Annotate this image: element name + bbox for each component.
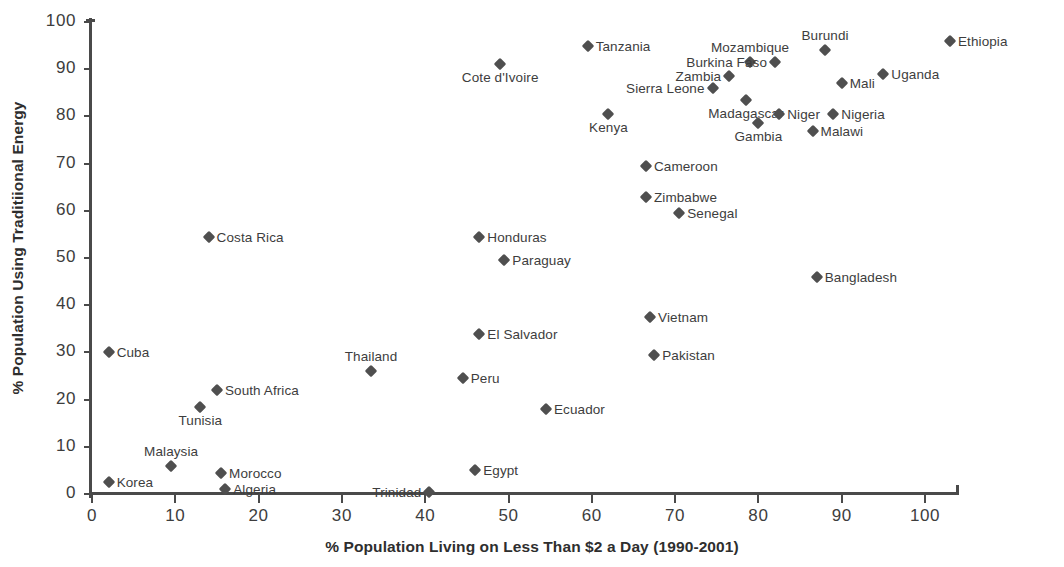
data-point-label: Ethiopia: [958, 33, 1008, 48]
data-point-marker[interactable]: [877, 68, 890, 81]
data-point-marker[interactable]: [102, 476, 115, 489]
data-point-label: Vietnam: [658, 310, 708, 325]
y-tick-label: 50: [16, 247, 76, 267]
data-point-label: Tunisia: [178, 413, 222, 428]
x-tick-label: 80: [728, 506, 788, 526]
data-point-label: Ecuador: [554, 402, 605, 417]
x-tick-mark: [508, 495, 510, 503]
data-point-marker[interactable]: [494, 58, 507, 71]
data-point-label: Korea: [117, 475, 154, 490]
x-tick-mark: [841, 495, 843, 503]
data-point-label: Senegal: [687, 206, 737, 221]
data-point-marker[interactable]: [740, 94, 753, 107]
y-tick-label: 90: [16, 58, 76, 78]
y-tick-mark: [84, 257, 91, 259]
y-tick-mark: [84, 446, 91, 448]
data-point-label: Nigeria: [841, 107, 884, 122]
data-point-marker[interactable]: [640, 160, 653, 173]
data-point-label: Pakistan: [662, 347, 715, 362]
x-axis-cap: [956, 485, 959, 495]
data-point-marker[interactable]: [835, 77, 848, 90]
data-point-marker[interactable]: [365, 365, 378, 378]
data-point-label: Egypt: [483, 463, 518, 478]
data-point-label: Uganda: [891, 66, 939, 81]
x-tick-label: 40: [395, 506, 455, 526]
data-point-label: Cote d'Ivoire: [462, 70, 539, 85]
x-tick-label: 90: [812, 506, 872, 526]
data-point-marker[interactable]: [806, 124, 819, 137]
data-point-marker[interactable]: [498, 254, 511, 267]
x-tick-label: 0: [62, 506, 122, 526]
data-point-marker[interactable]: [102, 346, 115, 359]
y-tick-mark: [84, 163, 91, 165]
y-tick-label: 40: [16, 294, 76, 314]
data-point-marker[interactable]: [944, 35, 957, 48]
y-tick-label: 10: [16, 436, 76, 456]
y-tick-label: 60: [16, 200, 76, 220]
data-point-marker[interactable]: [469, 464, 482, 477]
data-point-marker[interactable]: [456, 372, 469, 385]
data-point-label: Tanzania: [596, 38, 651, 53]
x-tick-label: 70: [645, 506, 705, 526]
y-tick-mark: [84, 304, 91, 306]
y-tick-label: 0: [16, 483, 76, 503]
data-point-marker[interactable]: [602, 108, 615, 121]
data-point-marker[interactable]: [581, 39, 594, 52]
data-point-marker[interactable]: [473, 230, 486, 243]
data-point-label: Mozambique: [711, 40, 789, 55]
y-tick-mark: [84, 399, 91, 401]
data-point-label: Honduras: [487, 229, 546, 244]
y-tick-mark: [84, 21, 91, 23]
x-tick-mark: [924, 495, 926, 503]
x-tick-label: 60: [562, 506, 622, 526]
x-tick-mark: [591, 495, 593, 503]
x-tick-mark: [174, 495, 176, 503]
data-point-marker[interactable]: [211, 384, 224, 397]
data-point-marker[interactable]: [202, 230, 215, 243]
data-point-marker[interactable]: [819, 44, 832, 57]
data-point-label: El Salvador: [487, 326, 557, 341]
x-tick-label: 100: [895, 506, 955, 526]
data-point-marker[interactable]: [648, 348, 661, 361]
data-point-label: Zimbabwe: [654, 189, 717, 204]
x-tick-label: 10: [145, 506, 205, 526]
data-point-label: Niger: [787, 107, 820, 122]
data-point-marker[interactable]: [827, 108, 840, 121]
x-tick-mark: [757, 495, 759, 503]
data-point-marker[interactable]: [165, 459, 178, 472]
data-point-label: Gambia: [734, 129, 782, 144]
x-tick-label: 50: [479, 506, 539, 526]
data-point-label: Kenya: [589, 120, 628, 135]
scatter-chart: % Population Using Traditiional Energy %…: [0, 0, 1064, 567]
y-tick-label: 20: [16, 389, 76, 409]
y-tick-label: 80: [16, 105, 76, 125]
data-point-label: Zambia: [676, 69, 722, 84]
y-tick-mark: [84, 68, 91, 70]
data-point-marker[interactable]: [540, 403, 553, 416]
data-point-label: Trinidad: [372, 484, 421, 499]
data-point-marker[interactable]: [673, 207, 686, 220]
x-tick-label: 30: [312, 506, 372, 526]
y-tick-label: 70: [16, 153, 76, 173]
data-point-marker[interactable]: [640, 190, 653, 203]
data-point-marker[interactable]: [644, 311, 657, 324]
data-point-label: South Africa: [225, 383, 299, 398]
x-tick-mark: [674, 495, 676, 503]
data-point-label: Algeria: [233, 482, 276, 497]
data-point-label: Burundi: [801, 28, 848, 43]
x-axis-title: % Population Living on Less Than $2 a Da…: [0, 538, 1064, 556]
data-point-label: Cameroon: [654, 158, 718, 173]
data-point-marker[interactable]: [723, 70, 736, 83]
data-point-marker[interactable]: [769, 56, 782, 69]
data-point-marker[interactable]: [810, 271, 823, 284]
y-tick-mark: [84, 351, 91, 353]
data-point-marker[interactable]: [194, 400, 207, 413]
x-tick-mark: [91, 495, 93, 503]
data-point-label: Morocco: [229, 465, 281, 480]
data-point-label: Thailand: [345, 349, 398, 364]
data-point-marker[interactable]: [215, 466, 228, 479]
y-tick-mark: [84, 115, 91, 117]
data-point-label: Costa Rica: [217, 229, 284, 244]
data-point-marker[interactable]: [473, 327, 486, 340]
y-tick-label: 100: [16, 11, 76, 31]
